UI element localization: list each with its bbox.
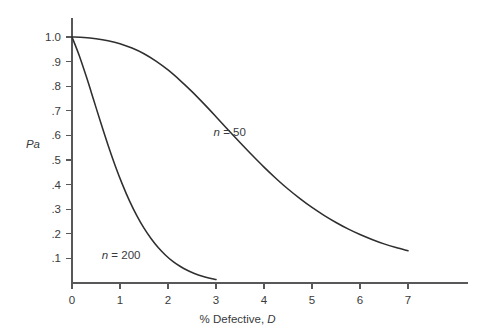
y-tick-label: .1 — [51, 252, 61, 264]
y-tick-label: .8 — [51, 80, 61, 92]
y-tick-label: 1.0 — [45, 31, 61, 43]
oc-curve-chart: .1.2.3.4.5.6.7.8.91.0 01234567 n = 50n =… — [0, 0, 492, 335]
y-axis-tick-labels: .1.2.3.4.5.6.7.8.91.0 — [45, 31, 62, 264]
y-tick-label: .3 — [51, 203, 61, 215]
y-tick-label: .2 — [51, 228, 61, 240]
y-axis-ticks — [66, 37, 72, 258]
x-tick-label: 0 — [69, 294, 75, 306]
x-axis-title-text: % Defective, — [200, 313, 268, 325]
oc-curve-figure: .1.2.3.4.5.6.7.8.91.0 01234567 n = 50n =… — [0, 0, 492, 335]
x-tick-label: 5 — [309, 294, 315, 306]
y-tick-label: .7 — [51, 105, 61, 117]
series-label-value: = 50 — [220, 126, 246, 138]
data-curves — [72, 37, 408, 280]
x-tick-label: 7 — [405, 294, 411, 306]
series-annotations: n = 50n = 200 — [102, 126, 246, 262]
x-axis-tick-labels: 01234567 — [69, 294, 411, 306]
x-tick-label: 4 — [261, 294, 268, 306]
x-tick-label: 1 — [117, 294, 123, 306]
y-axis-group: .1.2.3.4.5.6.7.8.91.0 — [45, 18, 72, 283]
series-label-n200: n = 200 — [102, 249, 141, 261]
y-tick-label: .4 — [51, 179, 61, 191]
x-tick-label: 6 — [357, 294, 363, 306]
x-tick-label: 3 — [213, 294, 219, 306]
y-axis-title: Pa — [26, 138, 40, 150]
y-tick-label: .9 — [51, 56, 61, 68]
curve-n200 — [72, 37, 216, 280]
curve-n50 — [72, 37, 408, 251]
series-label-value: = 200 — [108, 249, 140, 261]
y-tick-label: .6 — [51, 129, 61, 141]
x-axis-title-symbol: D — [267, 313, 275, 325]
x-axis-ticks — [72, 283, 408, 289]
y-tick-label: .5 — [51, 154, 61, 166]
x-axis-title: % Defective, D — [200, 313, 276, 325]
x-tick-label: 2 — [165, 294, 171, 306]
series-label-n50: n = 50 — [214, 126, 246, 138]
x-axis-group: 01234567 — [69, 283, 468, 306]
